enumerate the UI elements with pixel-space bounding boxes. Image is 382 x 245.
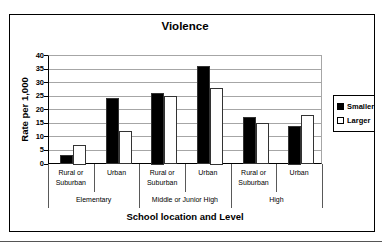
chart-title: Violence	[48, 20, 322, 32]
y-tick-label: 0	[18, 159, 44, 168]
bar-smaller	[60, 155, 73, 164]
y-tick-mark	[44, 150, 48, 151]
category-label: Rural orSuburban	[48, 168, 94, 188]
legend-marker-larger	[337, 117, 344, 124]
gridline	[49, 69, 321, 70]
legend: Smaller Larger	[333, 95, 375, 132]
y-tick-mark	[44, 109, 48, 110]
category-label: Urban	[185, 168, 231, 178]
chart-screenshot: 0510152025303540Rural orSuburbanUrbanRur…	[0, 0, 382, 245]
separator-line	[322, 164, 323, 208]
bar-larger	[119, 131, 132, 165]
y-tick-mark	[44, 69, 48, 70]
bar-larger	[301, 115, 314, 165]
gridline	[49, 150, 321, 151]
y-tick-mark	[44, 82, 48, 83]
x-axis-title: School location and Level	[48, 211, 322, 222]
y-tick-label: 40	[18, 51, 44, 60]
bar-larger	[210, 88, 223, 165]
y-tick-mark	[44, 123, 48, 124]
y-tick-mark	[44, 136, 48, 137]
bar-smaller	[288, 126, 301, 165]
bottom-rule	[0, 241, 382, 242]
bar-smaller	[151, 93, 164, 165]
level-label: High	[231, 196, 322, 203]
gridline	[49, 109, 321, 110]
gridline	[49, 136, 321, 137]
category-label: Rural orSuburban	[139, 168, 185, 188]
y-tick-mark	[44, 96, 48, 97]
gridline	[49, 82, 321, 83]
bar-smaller	[106, 98, 119, 164]
level-label: Elementary	[48, 196, 139, 203]
gridline	[49, 96, 321, 97]
chart-layer: 0510152025303540Rural orSuburbanUrbanRur…	[0, 0, 382, 245]
category-label: Urban	[276, 168, 322, 178]
bar-larger	[73, 145, 86, 165]
y-axis-title: Rate per 1,000	[19, 60, 30, 160]
category-label: Rural orSuburban	[231, 168, 277, 188]
bar-smaller	[243, 117, 256, 164]
legend-item-larger: Larger	[337, 116, 371, 125]
legend-label-larger: Larger	[347, 116, 370, 125]
legend-marker-smaller	[337, 103, 344, 110]
legend-label-smaller: Smaller	[347, 102, 374, 111]
gridline	[49, 123, 321, 124]
bar-larger	[164, 96, 177, 165]
category-label: Urban	[94, 168, 140, 178]
level-label: Middle or Junior High	[139, 196, 230, 203]
bar-larger	[256, 123, 269, 165]
legend-item-smaller: Smaller	[337, 102, 371, 111]
bar-smaller	[197, 66, 210, 165]
y-tick-mark	[44, 55, 48, 56]
